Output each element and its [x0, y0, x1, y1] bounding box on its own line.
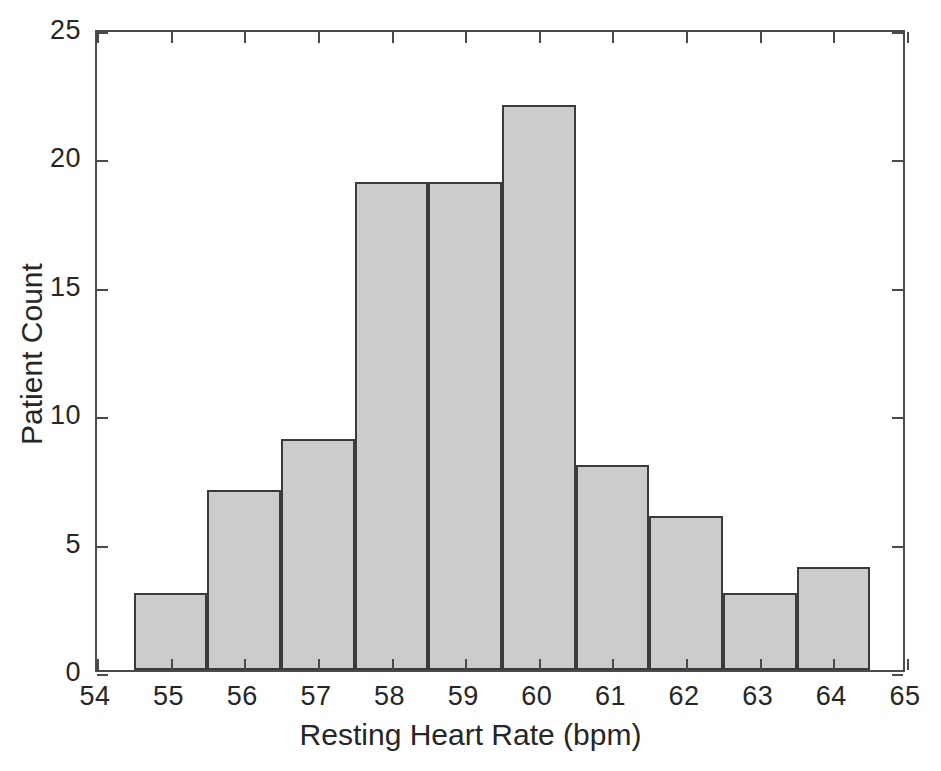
x-axis-tick — [833, 32, 835, 43]
y-axis-tick — [97, 674, 108, 676]
histogram-bar — [576, 465, 650, 670]
x-axis-tick — [760, 32, 762, 43]
y-axis-tick — [892, 546, 903, 548]
x-axis-tick — [171, 659, 173, 670]
x-tick-label: 63 — [742, 681, 773, 712]
histogram-bar — [281, 439, 355, 670]
x-axis-tick — [612, 32, 614, 43]
x-axis-tick — [833, 659, 835, 670]
x-tick-label: 62 — [669, 681, 700, 712]
y-axis-tick — [892, 417, 903, 419]
x-axis-tick — [686, 659, 688, 670]
x-axis-tick — [907, 659, 909, 670]
x-tick-label: 57 — [300, 681, 331, 712]
histogram-bar — [428, 182, 502, 670]
bars-layer — [97, 32, 903, 670]
histogram-bar — [649, 516, 723, 670]
x-axis-tick — [465, 659, 467, 670]
histogram-bar — [797, 567, 871, 670]
y-axis-tick — [892, 160, 903, 162]
x-axis-tick — [244, 32, 246, 43]
plot-area — [95, 30, 905, 672]
y-axis-tick — [892, 674, 903, 676]
histogram-bar — [502, 105, 576, 670]
x-tick-label: 65 — [889, 681, 920, 712]
x-tick-label: 56 — [227, 681, 258, 712]
y-axis-tick — [97, 546, 108, 548]
x-axis-tick — [760, 659, 762, 670]
x-axis-tick — [171, 32, 173, 43]
y-axis-tick — [892, 289, 903, 291]
x-tick-label: 54 — [79, 681, 110, 712]
x-axis-tick — [907, 32, 909, 43]
histogram-bar — [355, 182, 429, 670]
y-axis-tick — [97, 289, 108, 291]
x-tick-label: 59 — [448, 681, 479, 712]
x-axis-label: Resting Heart Rate (bpm) — [0, 718, 941, 752]
y-axis-tick — [97, 32, 108, 34]
y-axis-tick — [97, 417, 108, 419]
x-axis-tick — [465, 32, 467, 43]
x-tick-label: 64 — [816, 681, 847, 712]
x-axis-tick — [318, 659, 320, 670]
x-axis-tick — [392, 32, 394, 43]
x-tick-label: 61 — [595, 681, 626, 712]
y-axis-tick — [892, 32, 903, 34]
y-axis-label: Patient Count — [15, 33, 49, 675]
x-tick-label: 60 — [521, 681, 552, 712]
x-axis-tick — [244, 659, 246, 670]
x-axis-tick — [539, 32, 541, 43]
x-axis-tick — [612, 659, 614, 670]
x-axis-tick — [318, 32, 320, 43]
x-tick-label: 58 — [374, 681, 405, 712]
y-axis-tick — [97, 160, 108, 162]
x-axis-tick — [686, 32, 688, 43]
x-axis-tick — [392, 659, 394, 670]
x-axis-tick — [97, 659, 99, 670]
histogram-figure: 545556575859606162636465 0510152025 Rest… — [0, 0, 941, 771]
x-tick-label: 55 — [153, 681, 184, 712]
histogram-bar — [207, 490, 281, 670]
x-axis-tick — [539, 659, 541, 670]
